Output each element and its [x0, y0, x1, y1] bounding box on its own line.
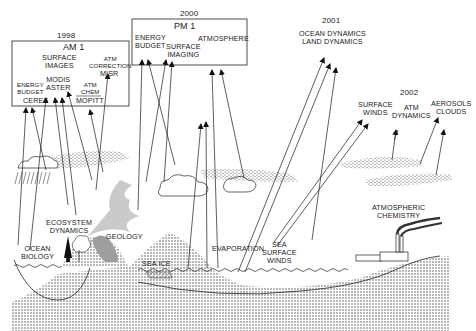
label-evaporation: EVAPORATION: [212, 245, 264, 253]
label-atmospheric-chemistry: ATMOSPHERIC CHEMISTRY: [372, 204, 425, 220]
label-line: WINDS: [262, 257, 297, 265]
year-label-2000: 2000: [180, 10, 198, 18]
label-line: BUDGET: [17, 88, 44, 95]
instrument-misr: MISR: [100, 70, 118, 78]
cloud-icon: [158, 175, 208, 196]
sea-ice: [146, 272, 172, 278]
label-line: IMAGES: [42, 62, 77, 70]
label-atm-chem: ATM CHEM: [81, 81, 100, 95]
label-line: BIOLOGY: [21, 253, 54, 261]
label-atmosphere: ATMOSPHERE: [198, 35, 249, 43]
label-ocean-biology: OCEAN BIOLOGY: [21, 245, 54, 261]
label-line: DYNAMICS: [46, 227, 92, 235]
label-2001-measures: OCEAN DYNAMICS LAND DYNAMICS: [299, 30, 366, 46]
label-aerosols-clouds: AEROSOLS CLOUDS: [431, 100, 471, 116]
label-line: ATM: [89, 55, 132, 62]
year-label-1998: 1998: [57, 32, 75, 40]
label-line: BUDGET: [135, 42, 166, 50]
instrument-mopitt: MOPITT: [76, 97, 104, 105]
label-line: CHEMISTRY: [372, 212, 425, 220]
label-atm-dynamics: ATM DYNAMICS: [392, 104, 431, 120]
instrument-ceres: CERES: [23, 97, 48, 105]
instrument-modis-aster: MODIS ASTER: [46, 76, 70, 92]
label-surface-winds: SURFACE WINDS: [358, 101, 393, 117]
label-sea-ice: SEA ICE: [142, 260, 171, 268]
label-sea-surface-winds: SEA SURFACE WINDS: [262, 241, 297, 265]
label-line: CORRECTION: [89, 62, 132, 69]
rain-icon: [15, 172, 50, 184]
label-line: WINDS: [358, 109, 393, 117]
label-atm-correction: ATM CORRECTION: [89, 55, 132, 69]
platform-pm1: PM 1: [174, 22, 195, 30]
label-surface-images: SURFACE IMAGES: [42, 54, 77, 70]
label-line: LAND DYNAMICS: [299, 38, 366, 46]
label-ecosystem-dynamics: ECOSYSTEM DYNAMICS: [46, 219, 92, 235]
label-geology: GEOLOGY: [106, 233, 143, 241]
year-label-2002: 2002: [400, 89, 418, 97]
label-energy-budget-am1: ENERGY BUDGET: [17, 81, 44, 95]
label-line: ATM: [81, 81, 100, 88]
label-line: CHEM: [81, 88, 100, 95]
haze-band-right1: [340, 157, 422, 169]
label-energy-budget-pm1: ENERGY BUDGET: [135, 34, 166, 50]
haze-band-right2: [365, 174, 452, 187]
factory-icon: [356, 218, 442, 261]
platform-am1: AM 1: [63, 43, 84, 51]
haze-band-middle: [200, 169, 298, 182]
clouds: [15, 151, 452, 196]
label-line: ENERGY: [17, 81, 44, 88]
label-line: DYNAMICS: [392, 112, 431, 120]
label-line: IMAGING: [166, 51, 201, 59]
label-line: CLOUDS: [431, 108, 471, 116]
label-line: ASTER: [46, 84, 70, 92]
year-label-2001: 2001: [322, 17, 340, 25]
label-surface-imaging: SURFACE IMAGING: [166, 43, 201, 59]
